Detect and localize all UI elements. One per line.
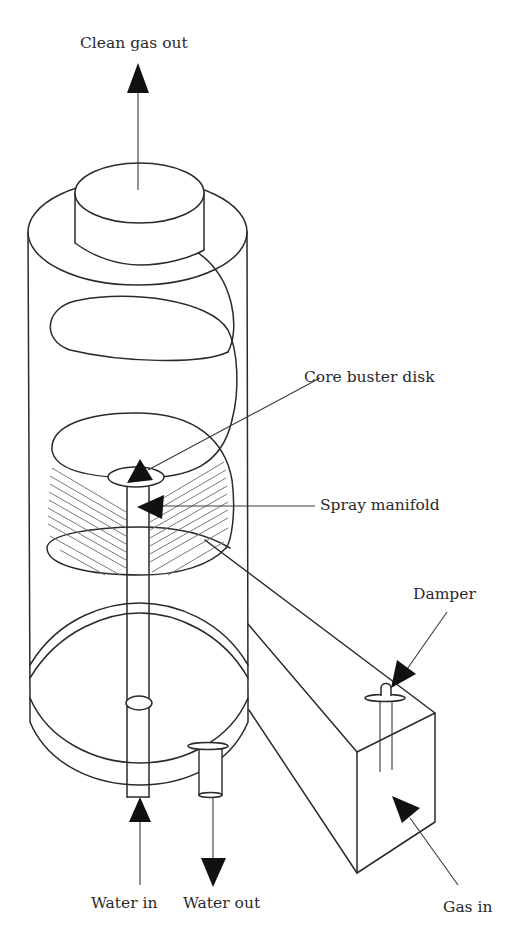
spiral-gas-path	[47, 252, 237, 575]
label-gas-in: Gas in	[443, 900, 492, 916]
spray-manifold-pointer	[137, 495, 315, 519]
arrow-up-icon	[127, 63, 149, 93]
damper	[365, 684, 405, 773]
label-core-buster-disk: Core buster disk	[304, 370, 435, 386]
scrubber-diagram	[0, 0, 529, 946]
arrow-down-icon	[201, 858, 226, 887]
gas-inlet-duct	[205, 540, 435, 873]
arrow-up-icon	[129, 797, 151, 822]
water-inlet-pipe	[126, 487, 152, 797]
gas-in-pointer	[392, 796, 458, 885]
water-out-arrow	[201, 797, 226, 887]
arrow-left-icon	[137, 495, 164, 519]
label-clean-gas-out: Clean gas out	[80, 36, 188, 52]
label-water-out: Water out	[183, 896, 260, 912]
damper-pointer	[391, 612, 447, 688]
arrow-icon	[391, 660, 416, 688]
label-water-in: Water in	[91, 896, 158, 912]
outlet-cap	[75, 163, 204, 265]
core-buster-disk	[108, 378, 320, 487]
label-spray-manifold: Spray manifold	[320, 498, 440, 514]
arrow-icon	[392, 796, 420, 823]
water-in-arrow	[129, 797, 151, 885]
label-damper: Damper	[413, 587, 476, 603]
